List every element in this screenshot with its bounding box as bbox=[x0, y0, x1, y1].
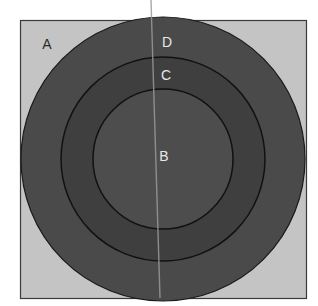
label-a: A bbox=[42, 37, 51, 51]
label-b: B bbox=[159, 149, 168, 163]
label-c: C bbox=[161, 68, 171, 82]
concentric-circles-diagram: A D C B bbox=[0, 0, 318, 306]
label-d: D bbox=[162, 35, 172, 49]
